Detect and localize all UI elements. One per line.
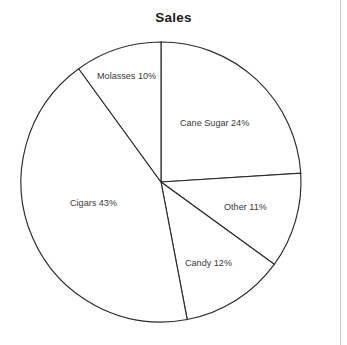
pie-slice-label-cane-sugar: Cane Sugar 24% xyxy=(180,119,249,128)
pie-chart-canvas xyxy=(0,0,347,345)
pie-slice-label-other: Other 11% xyxy=(224,203,267,212)
pie-slice-label-candy: Candy 12% xyxy=(185,259,232,268)
pie-slices-group xyxy=(21,42,301,322)
page-edge-divider xyxy=(340,0,341,345)
pie-chart-figure: Sales Cane Sugar 24%Other 11%Candy 12%Ci… xyxy=(0,0,347,345)
pie-slice-cane-sugar[interactable] xyxy=(161,42,301,182)
pie-slice-label-molasses: Molasses 10% xyxy=(97,72,156,81)
pie-slice-label-cigars: Cigars 43% xyxy=(70,199,117,208)
